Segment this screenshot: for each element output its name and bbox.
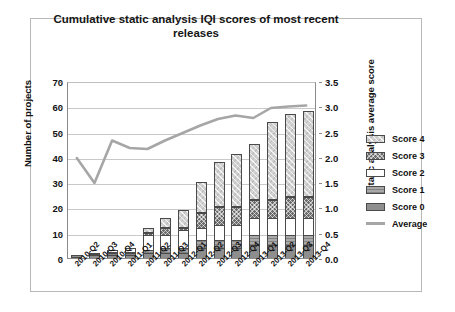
y-axis-right-tick-label: 0.0: [325, 254, 338, 265]
legend-swatch-score1: [366, 186, 385, 194]
y-axis-tick-mark: [60, 234, 63, 235]
legend-item-label: Score 1: [392, 185, 425, 195]
y-axis-right-tick-mark: [319, 183, 322, 184]
legend-swatch-score3: [366, 152, 385, 160]
y-axis-right-tick-mark: [319, 82, 322, 83]
legend-swatch-score0: [366, 203, 385, 211]
legend-item[interactable]: Score 1: [366, 181, 446, 198]
legend-swatch-score4: [366, 135, 385, 143]
legend-item-label: Score 0: [392, 202, 425, 212]
y-axis-right-tick-label: 0.5: [325, 228, 338, 239]
chart-title: Cumulative static analysis IQI scores of…: [36, 12, 356, 40]
chart-legend: Score 4Score 3Score 2Score 1Score 0Avera…: [366, 130, 446, 232]
y-axis-tick-mark: [60, 259, 63, 260]
legend-item[interactable]: Score 0: [366, 198, 446, 215]
y-axis-tick-mark: [60, 183, 63, 184]
y-axis-right-tick-mark: [319, 208, 322, 209]
average-line-series: [68, 83, 315, 258]
legend-item-label: Average: [392, 219, 427, 229]
y-axis-tick-mark: [60, 158, 63, 159]
plot-area: [67, 82, 316, 259]
legend-item[interactable]: Score 4: [366, 130, 446, 147]
y-axis-tick-mark: [60, 133, 63, 134]
legend-item[interactable]: Score 3: [366, 147, 446, 164]
y-axis-right-tick-mark: [319, 107, 322, 108]
legend-item[interactable]: Score 2: [366, 164, 446, 181]
legend-swatch-score2: [366, 169, 385, 177]
y-axis-right-tick-label: 3.5: [325, 77, 338, 88]
legend-item-label: Score 4: [392, 134, 425, 144]
y-axis-right-tick-label: 1.0: [325, 203, 338, 214]
y-axis-right-tick-mark: [319, 234, 322, 235]
y-axis-right-tick-label: 2.5: [325, 127, 338, 138]
y-axis-right-tick-label: 1.5: [325, 178, 338, 189]
y-axis-right-tick-label: 3.0: [325, 102, 338, 113]
x-axis-labels: 2010-Q22010-Q32010-Q42011-Q12011-Q22011-…: [67, 262, 316, 307]
y-axis-tick-mark: [60, 107, 63, 108]
y-axis-right-ticks: 0.00.51.01.52.02.53.03.5: [319, 82, 353, 259]
legend-item-label: Score 3: [392, 151, 425, 161]
y-axis-left-ticks: 010203040506070: [30, 82, 63, 259]
legend-swatch-average: [366, 222, 385, 225]
y-axis-tick-mark: [60, 82, 63, 83]
y-axis-right-tick-mark: [319, 133, 322, 134]
y-axis-right-tick-label: 2.0: [325, 152, 338, 163]
y-axis-right-tick-mark: [319, 158, 322, 159]
y-axis-tick-mark: [60, 208, 63, 209]
legend-item-label: Score 2: [392, 168, 425, 178]
legend-item[interactable]: Average: [366, 215, 446, 232]
